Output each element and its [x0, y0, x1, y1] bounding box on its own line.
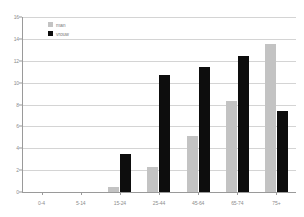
plot-area: 0246810121416	[22, 17, 296, 192]
bar-group	[139, 17, 178, 192]
legend-item-man: man	[48, 20, 69, 29]
x-axis-tick-mark	[198, 192, 199, 195]
x-axis-tick-mark	[81, 192, 82, 195]
x-axis-tick-label: 15-24	[100, 200, 139, 206]
bar-vrouw	[159, 75, 170, 192]
bar-group	[218, 17, 257, 192]
bar-man	[226, 101, 237, 192]
bars-layer	[22, 17, 296, 192]
x-axis-tick-mark	[120, 192, 121, 195]
bar-man	[187, 136, 198, 192]
legend-swatch-man-icon	[48, 22, 53, 27]
x-axis-tick-label: 25-44	[139, 200, 178, 206]
x-axis-tick-label: 75+	[257, 200, 296, 206]
chart-legend: man vrouw	[48, 20, 69, 38]
x-axis-labels: 0-45-1415-2425-4445-6465-7475+	[22, 200, 296, 206]
legend-item-vrouw: vrouw	[48, 29, 69, 38]
x-axis-tick-mark	[276, 192, 277, 195]
legend-label-vrouw: vrouw	[56, 31, 69, 37]
bar-man	[265, 44, 276, 192]
bar-vrouw	[238, 56, 249, 192]
x-axis-tick-label: 45-64	[179, 200, 218, 206]
x-axis-tick-label: 0-4	[22, 200, 61, 206]
bar-group	[179, 17, 218, 192]
legend-swatch-vrouw-icon	[48, 31, 53, 36]
bar-man	[108, 187, 119, 192]
bar-man	[147, 167, 158, 192]
bar-group	[257, 17, 296, 192]
bar-group	[100, 17, 139, 192]
bar-chart: 0246810121416 0-45-1415-2425-4445-6465-7…	[0, 0, 304, 217]
bar-group	[22, 17, 61, 192]
bar-vrouw	[199, 67, 210, 192]
x-axis-tick-label: 5-14	[61, 200, 100, 206]
bar-group	[61, 17, 100, 192]
legend-label-man: man	[56, 22, 65, 28]
bar-vrouw	[277, 111, 288, 192]
x-axis-tick-mark	[237, 192, 238, 195]
x-axis-tick-mark	[42, 192, 43, 195]
bar-vrouw	[120, 154, 131, 192]
x-axis-tick-label: 65-74	[218, 200, 257, 206]
x-axis-tick-mark	[159, 192, 160, 195]
